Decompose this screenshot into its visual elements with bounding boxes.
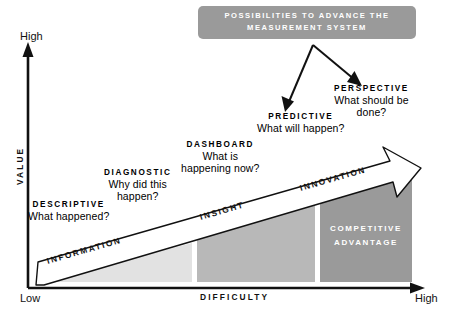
stage-predictive-question: What will happen? [257,122,345,134]
stage-dashboard-question-line-2: happening now? [181,162,259,174]
stage-descriptive: DESCRIPTIVE What happened? [28,200,109,222]
block-label-line-1: COMPETITIVE [324,222,408,236]
block-label-line-2: ADVANTAGE [324,236,408,250]
stage-diagnostic-title: DIAGNOSTIC [104,168,171,177]
y-axis-title: VALUE [16,147,25,185]
stage-diagnostic-question-line-2: happen? [104,190,171,202]
stage-predictive-title: PREDICTIVE [257,112,345,121]
stage-predictive: PREDICTIVE What will happen? [257,112,345,134]
x-axis-high-label: High [415,292,438,304]
block-label-competitive-advantage: COMPETITIVE ADVANTAGE [324,222,408,250]
title-banner: POSSIBILITIES TO ADVANCE THE MEASUREMENT… [198,6,416,39]
stage-dashboard: DASHBOARD What is happening now? [181,140,259,174]
stage-dashboard-question-line-1: What is [181,150,259,162]
stage-descriptive-question: What happened? [28,210,109,222]
diagram-canvas: POSSIBILITIES TO ADVANCE THE MEASUREMENT… [0,0,450,320]
stage-diagnostic-question-line-1: Why did this [104,178,171,190]
banner-arrow-to-perspective [313,45,362,86]
stage-perspective-question-line-1: What should be [334,94,409,106]
y-axis-high-label: High [20,30,43,42]
stage-perspective: PERSPECTIVE What should be done? [334,84,409,118]
banner-arrow-to-predictive [282,45,314,112]
stage-dashboard-title: DASHBOARD [181,140,259,149]
banner-line-2: MEASUREMENT SYSTEM [198,22,416,34]
stage-perspective-title: PERSPECTIVE [334,84,409,93]
x-axis-title: DIFFICULTY [200,293,269,302]
stage-perspective-question-line-2: done? [334,106,409,118]
stage-diagnostic: DIAGNOSTIC Why did this happen? [104,168,171,202]
stage-descriptive-title: DESCRIPTIVE [28,200,109,209]
banner-line-1: POSSIBILITIES TO ADVANCE THE [198,10,416,22]
y-axis-low-label: Low [20,292,40,304]
